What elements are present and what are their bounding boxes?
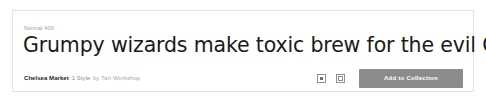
- duplicate-square-icon: [336, 74, 345, 83]
- font-specimen-card: Normal 400 Grumpy wizards make toxic bre…: [12, 10, 474, 92]
- specimen-preview-text[interactable]: Grumpy wizards make toxic brew for the e…: [23, 32, 467, 59]
- add-to-grid-icon: [317, 74, 326, 83]
- add-to-grid-button[interactable]: [313, 70, 330, 86]
- font-foundry-name[interactable]: by Tart Workshop: [93, 74, 140, 83]
- add-to-collection-button[interactable]: Add to Collection: [359, 69, 463, 88]
- font-family-name[interactable]: Chelsea Market: [24, 74, 69, 83]
- font-style-count: 1 Style: [72, 74, 91, 83]
- card-footer: Chelsea Market 1 Style by Tart Workshop …: [24, 65, 463, 91]
- font-weight-label: Normal 400: [24, 25, 54, 32]
- font-metadata: Chelsea Market 1 Style by Tart Workshop: [24, 74, 140, 83]
- duplicate-button[interactable]: [332, 70, 349, 86]
